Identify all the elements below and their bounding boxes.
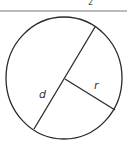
top-fragment-text: 2 (88, 0, 93, 7)
radius-label: r (94, 79, 100, 92)
diameter-label: d (39, 88, 47, 101)
radius-line (65, 79, 115, 110)
diameter-line (34, 27, 95, 129)
circle-diagram: 2 d r (0, 0, 127, 144)
